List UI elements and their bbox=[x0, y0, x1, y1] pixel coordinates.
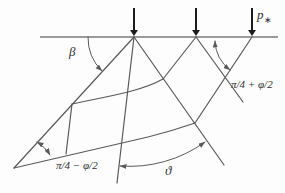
label-theta-angle: ϑ bbox=[165, 164, 171, 177]
label-beta-angle: β bbox=[69, 45, 75, 58]
bottom-slip-surface bbox=[14, 123, 195, 168]
wedge-right-line bbox=[196, 37, 243, 102]
apex-angle-arc bbox=[37, 142, 50, 155]
load-arrow-head bbox=[130, 30, 138, 36]
load-arrows bbox=[130, 8, 256, 36]
mechanism-svg bbox=[0, 0, 285, 193]
slip-lines bbox=[14, 37, 252, 183]
load-arrow bbox=[248, 8, 256, 36]
theta-angle-arc bbox=[120, 142, 205, 166]
block-edge-line bbox=[66, 104, 72, 154]
load-arrow bbox=[192, 8, 200, 36]
load-arrow-head bbox=[248, 30, 256, 36]
label-right-wedge-angle: π/4 + φ/2 bbox=[231, 79, 273, 90]
beta-angle-arc bbox=[88, 37, 102, 71]
load-subscript: ∗ bbox=[264, 15, 272, 25]
fan-vertical-line bbox=[117, 37, 134, 183]
load-arrow bbox=[130, 8, 138, 36]
inner-slip-curve bbox=[72, 79, 163, 104]
wedge-left-line bbox=[163, 37, 196, 79]
diagram-canvas: β p∗ π/4 + φ/2 π/4 − φ/2 ϑ bbox=[0, 0, 285, 193]
label-left-wedge-angle: π/4 − φ/2 bbox=[56, 160, 98, 171]
angle-arcs bbox=[37, 37, 230, 166]
load-arrow-head bbox=[192, 30, 200, 36]
label-load-pressure: p∗ bbox=[257, 8, 272, 24]
